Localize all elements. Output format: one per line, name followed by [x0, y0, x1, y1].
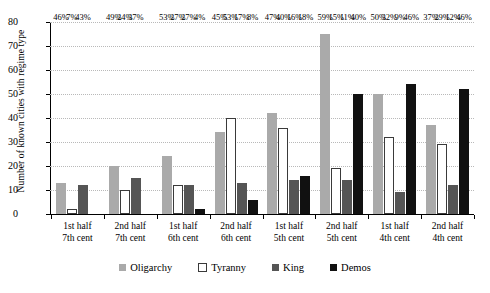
x-axis-label: 1st half7th cent: [51, 220, 104, 244]
y-tick-label: 70: [0, 41, 18, 51]
bar-demos[interactable]: [89, 22, 99, 214]
bar-king[interactable]: 16%: [289, 22, 299, 214]
x-axis-label-line: 6th cent: [210, 232, 263, 244]
bar-value-label: 46%: [403, 13, 419, 22]
bar-oligarchy[interactable]: 45%: [215, 22, 225, 214]
bar-value-label: 8%: [247, 13, 258, 22]
x-axis-label-line: 2nd half: [210, 220, 263, 232]
bar-tyranny[interactable]: 15%: [331, 22, 341, 214]
y-tick-mark: [46, 214, 50, 215]
x-axis-label-line: 1st half: [157, 220, 210, 232]
bar-oligarchy[interactable]: 47%: [267, 22, 277, 214]
bar-rect[interactable]: 53%: [162, 156, 172, 214]
y-tick-mark: [46, 46, 50, 47]
bar-tyranny[interactable]: 29%: [437, 22, 447, 214]
legend-label: King: [283, 262, 304, 273]
bar-oligarchy[interactable]: 53%: [162, 22, 172, 214]
bar-tyranny[interactable]: 32%: [384, 22, 394, 214]
bar-rect[interactable]: 16%: [289, 180, 299, 214]
bar-demos[interactable]: [142, 22, 152, 214]
y-tick-label: 60: [0, 65, 18, 75]
bar-tyranny[interactable]: 40%: [278, 22, 288, 214]
x-tick-mark: [104, 215, 105, 219]
bar-king[interactable]: 12%: [448, 22, 458, 214]
x-axis-label-line: 1st half: [51, 220, 104, 232]
bar-rect[interactable]: 49%: [109, 166, 119, 214]
bar-group: 50%32%9%46%: [368, 22, 421, 214]
bar-rect[interactable]: 11%: [342, 180, 352, 214]
bar-rect[interactable]: 18%: [300, 176, 310, 214]
bar-demos[interactable]: 40%: [353, 22, 363, 214]
bar-tyranny[interactable]: 53%: [226, 22, 236, 214]
bar-king[interactable]: 11%: [342, 22, 352, 214]
bar-rect[interactable]: 24%: [120, 190, 130, 214]
bar-rect[interactable]: 17%: [237, 183, 247, 214]
bar-rect[interactable]: 32%: [384, 137, 394, 214]
x-axis-label-line: 1st half: [263, 220, 316, 232]
bar-demos[interactable]: 4%: [195, 22, 205, 214]
bar-demos[interactable]: 46%: [406, 22, 416, 214]
y-tick-label: 40: [0, 113, 18, 123]
legend-item-tyranny[interactable]: Tyranny: [198, 262, 246, 273]
legend-item-king[interactable]: King: [272, 262, 304, 273]
bar-king[interactable]: 37%: [131, 22, 141, 214]
bar-value-label: 18%: [298, 13, 314, 22]
y-tick-label: 80: [0, 17, 18, 27]
y-tick-label: 0: [0, 209, 18, 219]
bar-king[interactable]: 43%: [78, 22, 88, 214]
bar-rect[interactable]: 47%: [267, 113, 277, 214]
bar-rect[interactable]: 37%: [131, 178, 141, 214]
bar-rect[interactable]: 29%: [437, 144, 447, 214]
bar-rect[interactable]: 43%: [78, 185, 88, 214]
bar-groups: 46%7%43%49%24%37%53%27%27%4%45%53%17%8%4…: [51, 22, 474, 214]
bar-rect[interactable]: 8%: [248, 200, 258, 214]
x-axis-label: 1st half6th cent: [157, 220, 210, 244]
bar-king[interactable]: 27%: [184, 22, 194, 214]
bar-rect[interactable]: 15%: [331, 168, 341, 214]
bar-oligarchy[interactable]: 59%: [320, 22, 330, 214]
bar-rect[interactable]: 45%: [215, 132, 225, 214]
x-axis-label-line: 4th cent: [421, 232, 474, 244]
bar-rect[interactable]: 53%: [226, 118, 236, 214]
bar-rect[interactable]: 9%: [395, 192, 405, 214]
legend-label: Oligarchy: [130, 262, 172, 273]
bar-rect[interactable]: 12%: [448, 185, 458, 214]
bar-rect[interactable]: 40%: [353, 94, 363, 214]
bar-king[interactable]: 17%: [237, 22, 247, 214]
x-axis-label-line: 5th cent: [315, 232, 368, 244]
x-tick-mark: [263, 215, 264, 219]
bar-group: 37%29%12%46%: [421, 22, 474, 214]
bar-king[interactable]: 9%: [395, 22, 405, 214]
bar-tyranny[interactable]: 24%: [120, 22, 130, 214]
bar-rect[interactable]: 59%: [320, 34, 330, 214]
bar-rect[interactable]: 46%: [459, 89, 469, 214]
legend-item-demos[interactable]: Demos: [330, 262, 371, 273]
y-tick-mark: [46, 190, 50, 191]
bar-oligarchy[interactable]: 37%: [426, 22, 436, 214]
legend-item-oligarchy[interactable]: Oligarchy: [119, 262, 172, 273]
bar-rect[interactable]: 37%: [426, 125, 436, 214]
x-axis-label: 2nd half5th cent: [315, 220, 368, 244]
x-axis-label-line: 4th cent: [368, 232, 421, 244]
bar-oligarchy[interactable]: 49%: [109, 22, 119, 214]
bar-oligarchy[interactable]: 46%: [56, 22, 66, 214]
bar-rect[interactable]: 46%: [406, 84, 416, 214]
bar-rect[interactable]: 27%: [173, 185, 183, 214]
bar-oligarchy[interactable]: 50%: [373, 22, 383, 214]
x-axis-label: 2nd half4th cent: [421, 220, 474, 244]
bar-demos[interactable]: 8%: [248, 22, 258, 214]
bar-demos[interactable]: 18%: [300, 22, 310, 214]
bar-tyranny[interactable]: 27%: [173, 22, 183, 214]
bar-rect[interactable]: 27%: [184, 185, 194, 214]
bar-rect[interactable]: 46%: [56, 183, 66, 214]
bar-rect[interactable]: 4%: [195, 209, 205, 214]
x-axis-label-line: 2nd half: [421, 220, 474, 232]
bar-rect[interactable]: 50%: [373, 94, 383, 214]
bar-rect[interactable]: 40%: [278, 128, 288, 214]
bar-tyranny[interactable]: 7%: [67, 22, 77, 214]
y-tick-label: 10: [0, 185, 18, 195]
x-tick-mark: [157, 215, 158, 219]
bar-demos[interactable]: 46%: [459, 22, 469, 214]
bar-rect[interactable]: 7%: [67, 209, 77, 214]
x-axis-label-line: 2nd half: [315, 220, 368, 232]
